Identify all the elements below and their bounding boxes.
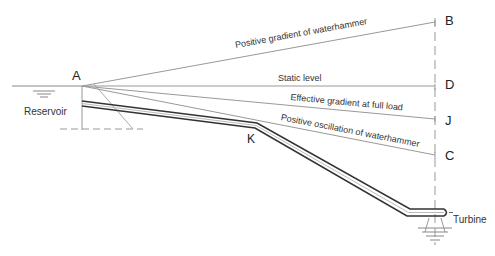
- penstock-top-wall: [82, 101, 444, 209]
- point-d-label: D: [445, 77, 454, 92]
- turbine-support: [425, 218, 429, 232]
- point-a-label: A: [72, 68, 81, 83]
- point-k-label: K: [247, 132, 255, 146]
- point-j-label: J: [445, 113, 452, 128]
- penstock-bottom-wall: [82, 106, 444, 216]
- point-b-label: B: [445, 13, 454, 28]
- turbine-support: [441, 218, 445, 232]
- point-c-label: C: [445, 148, 454, 163]
- nozzle-end: [444, 209, 447, 216]
- positive-gradient-line: [82, 22, 435, 86]
- reservoir-label: Reservoir: [24, 106, 67, 117]
- static-level-label: Static level: [278, 73, 322, 83]
- positive-oscillation-line: [82, 86, 435, 155]
- turbine-label: Turbine: [453, 214, 487, 225]
- penstock-centerline: [82, 104, 444, 213]
